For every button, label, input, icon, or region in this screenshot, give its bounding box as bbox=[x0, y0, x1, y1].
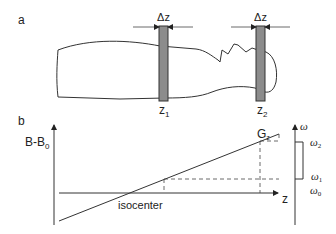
delta-z-label-1: Δz bbox=[157, 11, 170, 23]
panel-b-label: b bbox=[18, 114, 25, 128]
panel-a-label: a bbox=[18, 13, 25, 27]
isocenter-label: isocenter bbox=[118, 199, 163, 211]
delta-z-label-2: Δz bbox=[254, 11, 267, 23]
panel-b: b B-B0 z Gz isocenter ω ω2 ω1 ω0 bbox=[18, 114, 323, 225]
gradient-label: Gz bbox=[257, 127, 270, 141]
omega-axis-label: ω bbox=[300, 120, 308, 132]
slice-1 bbox=[159, 26, 168, 101]
z2-label: z2 bbox=[257, 103, 268, 119]
slice-2 bbox=[256, 26, 265, 101]
omega0-label: ω0 bbox=[310, 184, 322, 198]
omega1-label: ω1 bbox=[311, 170, 323, 184]
mri-slice-selection-diagram: a Δz z1 Δz z2 b B-B0 z Gz isocenter bbox=[0, 0, 336, 234]
dashed-guides bbox=[164, 134, 279, 193]
gradient-line bbox=[59, 134, 279, 221]
bandwidth-bracket bbox=[295, 142, 303, 179]
z1-label: z1 bbox=[159, 103, 170, 119]
omega2-label: ω2 bbox=[310, 136, 322, 150]
panel-a: a Δz z1 Δz z2 bbox=[18, 11, 290, 119]
x-axis-label: z bbox=[282, 192, 288, 206]
y-axis-label: B-B0 bbox=[25, 135, 50, 151]
